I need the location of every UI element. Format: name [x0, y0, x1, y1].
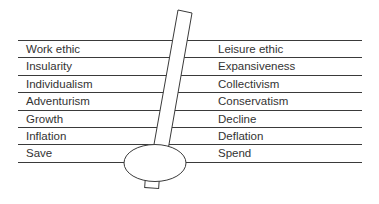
left-label-growth: Growth [26, 114, 63, 126]
pendulum-bob [124, 145, 186, 182]
left-label-inflation: Inflation [26, 131, 66, 143]
right-label-decline: Decline [218, 114, 256, 126]
right-label-collectivism: Collectivism [218, 79, 279, 91]
right-label-conservatism: Conservatism [218, 96, 288, 108]
pendulum [124, 10, 192, 188]
left-label-adventurism: Adventurism [26, 96, 90, 108]
pendulum-shaft [153, 10, 192, 150]
right-label-expansiveness: Expansiveness [218, 61, 295, 73]
right-label-deflation: Deflation [218, 131, 263, 143]
left-label-save: Save [26, 148, 52, 160]
left-label-insularity: Insularity [26, 61, 72, 73]
left-label-work-ethic: Work ethic [26, 44, 80, 56]
left-label-individualism: Individualism [26, 79, 92, 91]
right-label-spend: Spend [218, 148, 251, 160]
right-label-leisure-ethic: Leisure ethic [218, 44, 283, 56]
